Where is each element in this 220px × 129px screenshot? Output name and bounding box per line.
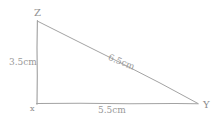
side-length-label-zx: 3.5cm — [9, 58, 37, 67]
side-xy-line — [37, 103, 199, 104]
vertex-label-y: Y — [203, 100, 210, 110]
vertex-label-x: x — [30, 105, 35, 113]
side-length-label-xy: 5.5cm — [98, 106, 126, 115]
triangle-diagram-canvas: Z x Y 3.5cm 6.5cm 5.5cm — [0, 0, 220, 129]
vertex-label-z: Z — [34, 8, 41, 18]
